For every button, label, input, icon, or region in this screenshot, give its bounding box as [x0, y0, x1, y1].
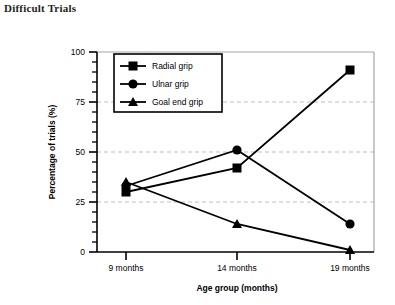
y-tick-label-25: 25 [76, 197, 86, 207]
x-tick-label-14-months: 14 months [217, 263, 257, 273]
legend-label-radial-grip: Radial grip [152, 61, 193, 71]
y-tick-label-0: 0 [80, 247, 85, 257]
data-point-radial-grip-19-months [346, 66, 355, 75]
legend-item-ulnar-grip[interactable]: Ulnar grip [120, 79, 189, 89]
chart-figure: Difficult Trials [0, 0, 395, 305]
y-axis-title: Percentage of trials (%) [47, 105, 57, 200]
data-point-ulnar-grip-14-months [232, 145, 241, 154]
line-chart-plot: 0 25 50 75 100 Percentage of trials (%) … [0, 0, 395, 305]
legend-label-ulnar-grip: Ulnar grip [152, 79, 189, 89]
x-axis-ticks [126, 252, 350, 260]
legend-item-goal-end-grip[interactable]: Goal end grip [120, 97, 203, 107]
x-tick-label-19-months: 19 months [330, 263, 370, 273]
y-tick-label-100: 100 [71, 47, 85, 57]
legend-label-goal-end-grip: Goal end grip [152, 97, 203, 107]
data-point-ulnar-grip-19-months [345, 219, 354, 228]
chart-legend: Radial grip Ulnar grip Goal end grip [114, 54, 222, 112]
square-marker-icon [129, 62, 138, 71]
y-tick-label-50: 50 [76, 147, 86, 157]
x-axis-title: Age group (months) [196, 283, 277, 293]
y-axis-tick-labels: 0 25 50 75 100 [71, 47, 85, 257]
circle-marker-icon [128, 79, 137, 88]
y-tick-label-75: 75 [76, 97, 86, 107]
legend-item-radial-grip[interactable]: Radial grip [120, 61, 193, 71]
data-point-radial-grip-9-months [122, 188, 131, 197]
x-tick-label-9-months: 9 months [109, 263, 144, 273]
data-point-radial-grip-14-months [233, 164, 242, 173]
x-axis-tick-labels: 9 months 14 months 19 months [109, 263, 370, 273]
